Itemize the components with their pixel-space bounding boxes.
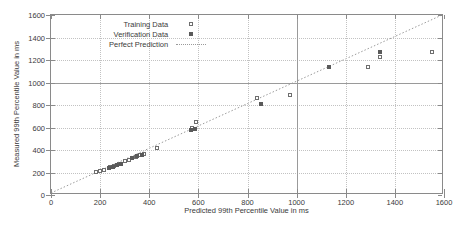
data-point-training-data: [255, 96, 259, 100]
dotted-line-icon: [176, 44, 206, 45]
x-tick-inner-600: [198, 189, 199, 193]
y-tick-label-0: 0: [41, 191, 45, 200]
y-tick-right-600: [438, 128, 442, 129]
data-point-verification-data: [130, 156, 134, 160]
y-tick-inner-1200: [51, 60, 55, 61]
legend-key-verification: [174, 32, 208, 36]
x-tick-inner-1600: [444, 189, 445, 193]
y-tick-label-1200: 1200: [28, 56, 45, 65]
legend-item-perfect-prediction: Perfect Prediction: [109, 39, 208, 49]
y-tick-label-1000: 1000: [28, 78, 45, 87]
data-point-training-data: [155, 146, 159, 150]
x-tick-inner-200: [100, 189, 101, 193]
y-tick-inner-200: [51, 173, 55, 174]
legend-key-training: [174, 22, 208, 26]
x-tick-inner-0: [51, 189, 52, 193]
open-square-icon: [189, 22, 193, 26]
y-tick-label-600: 600: [32, 123, 45, 132]
y-tick-right-0: [438, 195, 442, 196]
data-point-verification-data: [327, 65, 331, 69]
filled-square-icon: [189, 32, 193, 36]
data-point-training-data: [430, 50, 434, 54]
plot-area: 0200400600800100012001400160002004006008…: [50, 14, 443, 194]
data-point-verification-data: [193, 127, 197, 131]
y-tick-right-200: [438, 173, 442, 174]
legend-label-perfect-prediction: Perfect Prediction: [109, 40, 168, 49]
x-tick-top-0: [51, 15, 52, 19]
legend-item-training: Training Data: [109, 19, 208, 29]
x-tick-inner-1000: [297, 189, 298, 193]
data-point-training-data: [123, 159, 127, 163]
x-tick-inner-400: [149, 189, 150, 193]
y-tick-right-1400: [438, 38, 442, 39]
y-tick-label-800: 800: [32, 101, 45, 110]
scatter-chart-figure: Measured 99th Percentile Value in ms 020…: [0, 0, 472, 230]
x-tick-top-1200: [346, 15, 347, 19]
data-point-verification-data: [119, 162, 123, 166]
y-tick-label-1400: 1400: [28, 33, 45, 42]
y-tick-right-1200: [438, 60, 442, 61]
data-point-training-data: [102, 168, 106, 172]
x-tick-top-800: [248, 15, 249, 19]
y-tick-right-1000: [438, 83, 442, 84]
data-point-verification-data: [378, 50, 382, 54]
y-tick-label-400: 400: [32, 146, 45, 155]
chart-legend: Training Data Verification Data Perfect …: [109, 19, 208, 49]
x-tick-top-1600: [444, 15, 445, 19]
x-tick-top-1000: [297, 15, 298, 19]
y-tick-inner-1400: [51, 38, 55, 39]
y-tick-inner-600: [51, 128, 55, 129]
data-point-verification-data: [135, 154, 139, 158]
data-point-training-data: [378, 55, 382, 59]
legend-label-verification: Verification Data: [114, 30, 169, 39]
y-tick-right-400: [438, 150, 442, 151]
data-point-training-data: [366, 65, 370, 69]
x-tick-top-1400: [395, 15, 396, 19]
y-tick-label-200: 200: [32, 168, 45, 177]
x-tick-inner-1200: [346, 189, 347, 193]
y-tick-label-1600: 1600: [28, 11, 45, 20]
data-point-verification-data: [259, 102, 263, 106]
data-point-training-data: [288, 93, 292, 97]
legend-label-training: Training Data: [123, 20, 168, 29]
data-point-verification-data: [140, 153, 144, 157]
legend-item-verification: Verification Data: [109, 29, 208, 39]
x-tick-inner-800: [248, 189, 249, 193]
data-point-training-data: [194, 120, 198, 124]
y-axis-title: Measured 99th Percentile Value in ms: [10, 14, 22, 194]
x-axis-title: Predicted 99th Percentile Value in ms: [50, 206, 443, 215]
y-tick-right-1600: [438, 15, 442, 16]
y-tick-inner-1000: [51, 83, 55, 84]
y-tick-right-800: [438, 105, 442, 106]
x-tick-inner-1400: [395, 189, 396, 193]
y-tick-inner-400: [51, 150, 55, 151]
x-tick-top-200: [100, 15, 101, 19]
y-tick-inner-800: [51, 105, 55, 106]
legend-key-perfect-prediction: [174, 44, 208, 45]
